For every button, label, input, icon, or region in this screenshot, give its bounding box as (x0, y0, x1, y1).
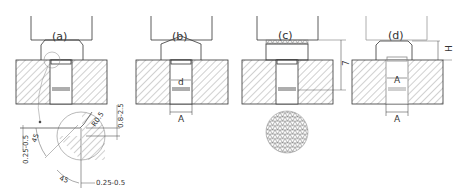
dim-label-angle-large: 45 (58, 174, 69, 185)
dim-label-radius: R0.5 (90, 110, 106, 128)
punch-c (266, 44, 308, 60)
dim-label-A-inner: A (394, 75, 401, 85)
dim-label-bottom-offset: 0.25-0.5 (96, 179, 125, 187)
dim-label-H: H (444, 45, 454, 52)
label-b: (b) (172, 30, 188, 43)
dim-label-A-outer: A (394, 114, 401, 124)
detail-a (20, 105, 120, 188)
dim-label-angle-small: 45 (30, 133, 41, 144)
label-d: (d) (388, 29, 404, 42)
profile-edge (20, 112, 92, 128)
label-a: (a) (52, 30, 67, 43)
die-cavity-a (50, 60, 72, 104)
dim-label-A-b: A (178, 114, 185, 124)
diagram-canvas: (a) (b) (c) (d) d A A A 7 H R0.5 0.8-2.5… (0, 0, 457, 195)
dim-label-chamfer: 0.8-2.5 (117, 103, 125, 128)
dim-label-d: d (178, 77, 184, 87)
punch-a (41, 40, 83, 60)
panel-c (242, 16, 346, 153)
dim-label-left-offset: 0.25-0.5 (22, 135, 30, 164)
die-cavity-c (276, 60, 298, 104)
knurl-detail-circle (266, 111, 308, 153)
dim-label-7: 7 (341, 60, 351, 66)
label-c: (c) (278, 29, 293, 42)
process-diagram: (a) (b) (c) (d) d A A A 7 H R0.5 0.8-2.5… (0, 0, 457, 195)
